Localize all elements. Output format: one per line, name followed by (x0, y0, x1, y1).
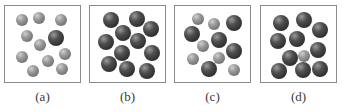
small-particle (21, 30, 33, 42)
panel-c (174, 5, 251, 83)
large-particle (129, 11, 145, 27)
small-particle (197, 40, 209, 52)
large-particle (48, 30, 64, 46)
large-particle (103, 12, 119, 28)
large-particle (310, 42, 326, 58)
small-particle (228, 64, 240, 76)
small-particle (298, 50, 310, 62)
large-particle (296, 12, 312, 28)
small-particle (42, 55, 54, 67)
large-particle (115, 25, 131, 41)
small-particle (33, 12, 45, 24)
small-particle (56, 63, 68, 75)
panel-label-b: (b) (89, 89, 166, 105)
panel-label-d: (d) (260, 89, 337, 105)
small-particle (16, 51, 28, 63)
large-particle (101, 56, 117, 72)
panel-a (4, 5, 81, 83)
large-particle (98, 34, 114, 50)
large-particle (312, 22, 328, 38)
panel-label-a: (a) (4, 89, 81, 105)
large-particle (184, 26, 200, 42)
large-particle (144, 45, 160, 61)
small-particle (187, 53, 199, 65)
large-particle (139, 63, 155, 79)
small-particle (34, 39, 46, 51)
large-particle (211, 32, 227, 48)
small-particle (213, 52, 225, 64)
panel-d (260, 5, 337, 83)
small-particle (27, 65, 39, 77)
panel-label-c: (c) (174, 89, 251, 105)
panel-b (89, 5, 166, 83)
large-particle (312, 61, 328, 77)
large-particle (289, 31, 305, 47)
large-particle (130, 33, 146, 49)
small-particle (59, 48, 71, 60)
large-particle (226, 15, 242, 31)
small-particle (16, 14, 28, 26)
large-particle (271, 63, 287, 79)
small-particle (208, 18, 220, 30)
large-particle (295, 62, 311, 78)
large-particle (114, 45, 130, 61)
large-particle (119, 61, 135, 77)
small-particle (192, 13, 204, 25)
large-particle (201, 61, 217, 77)
small-particle (55, 14, 67, 26)
large-particle (226, 43, 242, 59)
large-particle (273, 15, 289, 31)
large-particle (270, 33, 286, 49)
large-particle (282, 50, 298, 66)
large-particle (143, 21, 159, 37)
